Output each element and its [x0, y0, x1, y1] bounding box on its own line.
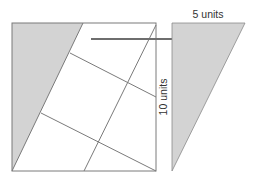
label-5-units: 5 units — [193, 8, 224, 20]
cross-line-lower — [41, 113, 156, 171]
square-dissection-diagram: 5 units 10 units — [0, 0, 256, 179]
cross-line-upper — [70, 53, 156, 97]
diagonal-right — [84, 25, 156, 171]
label-10-units: 10 units — [157, 79, 169, 116]
right-shaded-triangle — [172, 23, 245, 171]
